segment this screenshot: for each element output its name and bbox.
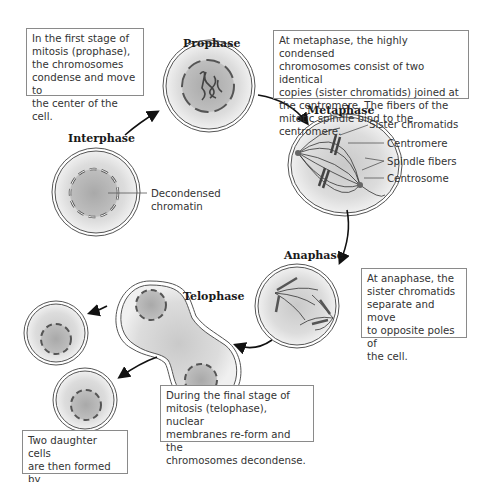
label-spindle-fibers: Spindle fibers bbox=[387, 155, 457, 168]
prophase-cell bbox=[163, 40, 255, 132]
anaphase-description-box: At anaphase, the sister chromatids separ… bbox=[361, 268, 467, 338]
stage-title-interphase: Interphase bbox=[68, 132, 135, 145]
telophase-description-box: During the final stage of mitosis (telop… bbox=[160, 385, 314, 442]
stage-title-prophase: Prophase bbox=[183, 37, 240, 50]
daughter-cell-1 bbox=[24, 301, 88, 365]
anaphase-cell bbox=[255, 264, 339, 348]
prophase-description-box: In the first stage of mitosis (prophase)… bbox=[26, 28, 144, 96]
daughter-cell-2 bbox=[53, 368, 117, 432]
stage-title-telophase: Telophase bbox=[183, 290, 244, 303]
label-decondensed-chromatin: Decondensed chromatin bbox=[151, 187, 221, 213]
stage-title-anaphase: Anaphase bbox=[284, 249, 344, 262]
label-centromere: Centromere bbox=[387, 137, 447, 150]
arrow-telophase-to-daughter-1 bbox=[90, 306, 107, 313]
arrow-telophase-to-daughter-2 bbox=[120, 357, 157, 377]
label-centrosome: Centrosome bbox=[387, 172, 449, 185]
metaphase-description-box: At metaphase, the highly condensed chrom… bbox=[273, 30, 469, 99]
daughter-cells-description-box: Two daughter cells are then formed by ce… bbox=[22, 430, 128, 474]
arrow-anaphase-to-telophase bbox=[236, 340, 272, 348]
interphase-cell bbox=[52, 148, 147, 236]
label-sister-chromatids: Sister chromatids bbox=[369, 118, 458, 131]
